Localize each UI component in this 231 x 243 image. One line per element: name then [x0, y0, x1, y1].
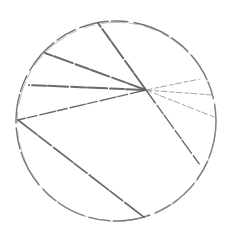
line-to-top: [98, 23, 146, 90]
line-to-left: [29, 85, 146, 90]
sketch-canvas: [0, 0, 231, 243]
line-to-upper-left: [45, 53, 146, 90]
outer-circle: [16, 21, 216, 221]
line-to-upper-right: [146, 79, 200, 90]
circle-sketch: [0, 0, 231, 243]
line-to-far-left: [18, 90, 146, 120]
line-to-lower-right: [146, 90, 200, 165]
chord: [18, 120, 145, 218]
chord-line: [18, 120, 145, 218]
